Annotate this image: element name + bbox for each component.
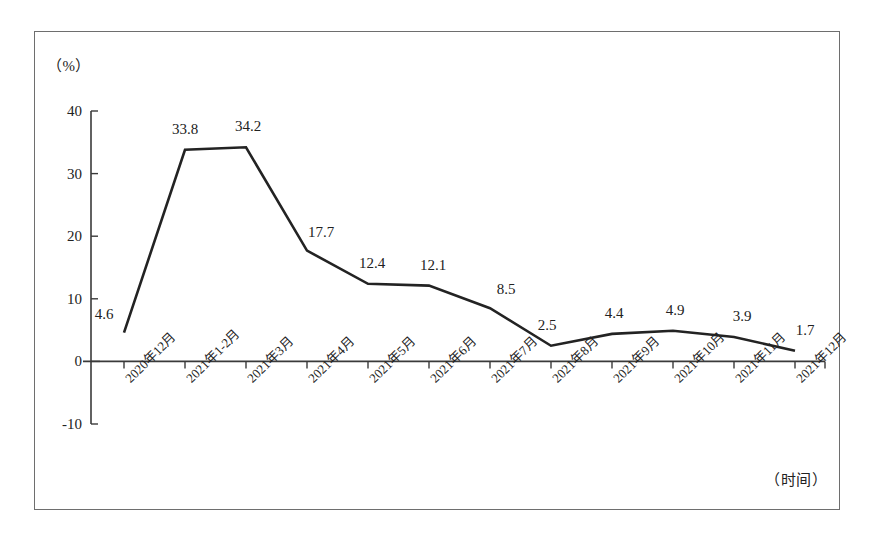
series-group (124, 147, 795, 350)
y-tick-label: 30 (67, 165, 82, 182)
y-tick-label: 20 (67, 228, 82, 245)
data-point-label: 4.9 (666, 302, 685, 319)
data-point-label: 3.9 (733, 308, 752, 325)
plot-area: （%） （时间） 403020100-10 2020年12月2021年1-2月2… (35, 32, 841, 511)
data-point-label: 34.2 (235, 118, 261, 135)
y-tick-label: -10 (62, 416, 82, 433)
y-tick-label: 10 (67, 290, 82, 307)
data-point-label: 4.6 (95, 306, 114, 323)
data-point-label: 12.4 (359, 255, 385, 272)
data-point-label: 1.7 (796, 322, 815, 339)
chart-page: （%） （时间） 403020100-10 2020年12月2021年1-2月2… (0, 0, 874, 541)
data-point-label: 17.7 (308, 224, 334, 241)
figure-frame: （%） （时间） 403020100-10 2020年12月2021年1-2月2… (34, 31, 840, 510)
data-point-label: 2.5 (538, 317, 557, 334)
data-point-label: 33.8 (172, 121, 198, 138)
data-point-label: 8.5 (497, 281, 516, 298)
series-line (124, 147, 795, 350)
data-point-label: 12.1 (420, 257, 446, 274)
data-point-label: 4.4 (605, 305, 624, 322)
y-tick-label: 40 (67, 103, 82, 120)
y-tick-label: 0 (75, 353, 83, 370)
